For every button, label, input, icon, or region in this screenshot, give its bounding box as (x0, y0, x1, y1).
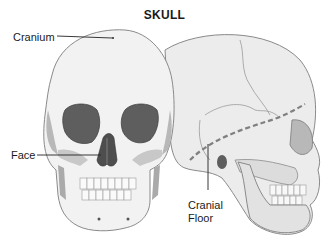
frontal-skull (44, 30, 174, 231)
cranial-floor-label-line1: Cranial (188, 199, 223, 211)
face-label: Face (11, 149, 35, 161)
cranium-label: Cranium (13, 31, 55, 43)
cranial-floor-label-line2: Floor (188, 212, 213, 224)
